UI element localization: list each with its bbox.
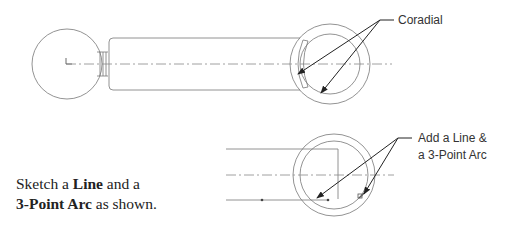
bottom-figure [226,134,394,216]
origin-icon [66,58,72,64]
add-line-label-2: a 3-Point Arc [418,148,487,162]
instruction-line-1: Sketch a Line and a [16,174,157,194]
keyword-line: Line [73,175,103,192]
instruction-line-2: 3-Point Arc as shown. [16,194,157,214]
keyword-3-point-arc: 3-Point Arc [16,195,92,212]
instruction-text: Sketch a Line and a 3-Point Arc as shown… [16,174,157,214]
top-figure [32,24,392,104]
add-line-arc-leaders [317,138,412,198]
coradial-leaders [298,20,394,93]
add-line-label-1: Add a Line & [418,131,487,145]
coradial-label: Coradial [398,13,443,27]
